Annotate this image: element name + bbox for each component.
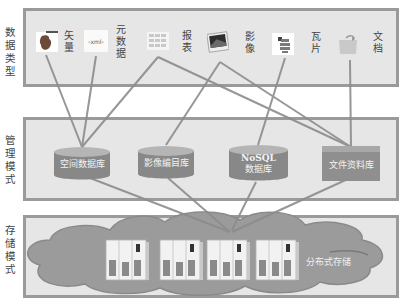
xml-icon: ‹xml› (84, 30, 108, 52)
image-catalog-database: 影像编目库 (138, 146, 194, 179)
photo-icon (207, 31, 229, 53)
folder-icon (337, 34, 359, 56)
database-label: 文件资料库 (322, 160, 380, 170)
data-type-tiles: 瓦片 (272, 33, 322, 55)
database-label: 空间数据库 (54, 159, 110, 169)
spatial-database: 空间数据库 (54, 147, 110, 180)
distributed-storage-label: 分布式存储 (306, 255, 351, 268)
layer-label-management: 管理模式 (3, 134, 17, 186)
file-database: 文件资料库 (322, 146, 380, 181)
data-type-imagery: 影像 (207, 31, 256, 55)
database-label-line1: NoSQL (229, 153, 288, 163)
data-type-metadata: ‹xml› 元数据 (84, 30, 127, 60)
nosql-database: NoSQL 数据库 (229, 145, 288, 181)
database-label: 影像编目库 (138, 158, 194, 168)
data-type-report: 报表 (147, 30, 193, 54)
layer-label-data-types: 数据类型 (3, 26, 17, 78)
layer-label-storage: 存储模式 (3, 224, 17, 276)
table-icon (147, 30, 169, 52)
database-label-line2: 数据库 (229, 164, 288, 174)
tiles-icon (272, 33, 294, 55)
data-type-vector: 矢量 (36, 30, 75, 54)
data-type-document: 文档 (337, 34, 384, 56)
vector-icon (36, 30, 58, 52)
